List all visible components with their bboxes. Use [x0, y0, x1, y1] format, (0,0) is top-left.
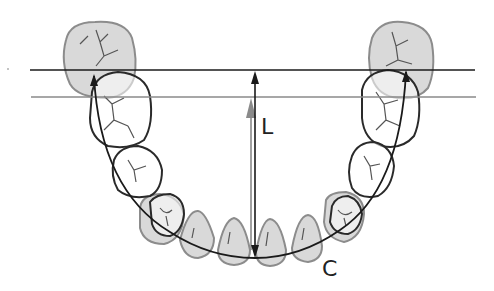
right-lateral-incisor: [292, 215, 322, 262]
label-L: L: [261, 116, 273, 138]
right-first-molar: [362, 70, 419, 147]
dental-arch-diagram: [0, 0, 494, 291]
right-central-incisor: [256, 219, 286, 266]
left-second-premolar: [113, 146, 162, 197]
speck: [7, 68, 9, 70]
label-C: C: [322, 258, 337, 280]
depth-arrowhead-top: [251, 71, 259, 84]
left-first-molar: [90, 72, 151, 147]
